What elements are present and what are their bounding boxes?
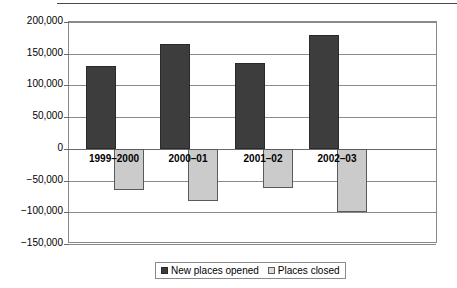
- gridline--100000: [69, 212, 436, 213]
- y-tick--50000: [64, 181, 69, 182]
- y-tick-150000: [64, 54, 69, 55]
- plot-area: 1999–20002000–012001–022002–03: [68, 21, 437, 243]
- bar-new-places-opened: [309, 35, 339, 149]
- gridline-200000: [69, 22, 436, 23]
- legend-label: New places opened: [171, 266, 259, 276]
- y-tick-label: −150,000: [21, 238, 63, 248]
- y-tick-label: −50,000: [27, 175, 63, 185]
- category-label: 2001–02: [229, 153, 297, 164]
- y-tick-200000: [64, 22, 69, 23]
- y-tick-label: 200,000: [27, 16, 63, 26]
- category-label: 1999–2000: [80, 153, 148, 164]
- y-tick--100000: [64, 212, 69, 213]
- gridline--150000: [69, 244, 436, 245]
- y-axis-labels: 200,000150,000100,00050,0000−50,000−100,…: [0, 21, 63, 243]
- bar-new-places-opened: [86, 66, 116, 148]
- y-tick-label: −100,000: [21, 206, 63, 216]
- y-tick-label: 50,000: [32, 111, 63, 121]
- legend-swatch-icon: [268, 267, 275, 274]
- bar-new-places-opened: [160, 44, 190, 149]
- chart-legend: New places openedPlaces closed: [155, 262, 346, 279]
- bar-chart-figure: 200,000150,000100,00050,0000−50,000−100,…: [0, 0, 457, 288]
- gridline-150000: [69, 54, 436, 55]
- legend-entry: New places opened: [161, 266, 259, 276]
- y-tick-label: 0: [57, 143, 63, 153]
- y-tick-0: [64, 149, 69, 150]
- legend-entry: Places closed: [268, 266, 340, 276]
- y-tick-50000: [64, 117, 69, 118]
- y-tick-100000: [64, 85, 69, 86]
- legend-swatch-icon: [161, 267, 168, 274]
- y-tick-label: 150,000: [27, 48, 63, 58]
- page-separator-rule: [57, 3, 457, 4]
- y-tick-label: 100,000: [27, 79, 63, 89]
- category-label: 2000–01: [154, 153, 222, 164]
- legend-label: Places closed: [278, 266, 340, 276]
- y-tick--150000: [64, 244, 69, 245]
- category-label: 2002–03: [303, 153, 371, 164]
- bar-new-places-opened: [235, 63, 265, 149]
